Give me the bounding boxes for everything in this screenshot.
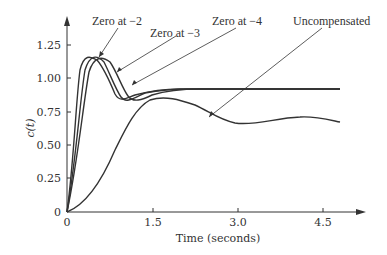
y-tick-label: 0.50 (37, 139, 62, 152)
x-axis-label: Time (seconds) (176, 232, 261, 245)
curve-zero-at-2 (67, 57, 340, 212)
curve-zero-at-4 (67, 58, 340, 212)
annotation-uncompensated: Uncompensated (293, 14, 370, 28)
y-tick-label: 1.25 (37, 39, 62, 52)
y-axis-arrow-icon (64, 16, 70, 26)
curves (67, 57, 340, 212)
y-tick-label: 1.00 (37, 72, 62, 85)
y-tick-label: 0.75 (37, 106, 62, 119)
arrowhead-icon (99, 51, 104, 57)
annotation-zero-at-2: Zero at −2 (92, 14, 142, 28)
arrowhead-icon (132, 80, 137, 85)
arrowhead-icon (117, 67, 122, 72)
y-ticks (67, 45, 323, 212)
curve-uncompensated (67, 98, 340, 212)
x-tick-label: 3.0 (229, 216, 247, 229)
annotation-zero-at-4: Zero at −4 (212, 14, 262, 28)
y-tick-label: 0 (54, 206, 61, 219)
x-tick-label: 1.5 (144, 216, 162, 229)
curve-zero-at-3 (67, 57, 340, 212)
x-tick-label: 0 (64, 216, 71, 229)
annotation-zero-at-3: Zero at −3 (150, 26, 200, 40)
annotation-arrows (99, 28, 322, 117)
chart-figure: 0 0.25 0.50 0.75 1.00 1.25 0 1.5 3.0 4.5… (0, 0, 387, 255)
x-axis-arrow-icon (356, 209, 366, 215)
x-tick-label: 4.5 (314, 216, 332, 229)
y-axis-label: c(t) (24, 118, 37, 137)
y-tick-label: 0.25 (37, 172, 62, 185)
step-response-chart: 0 0.25 0.50 0.75 1.00 1.25 0 1.5 3.0 4.5… (0, 0, 387, 255)
